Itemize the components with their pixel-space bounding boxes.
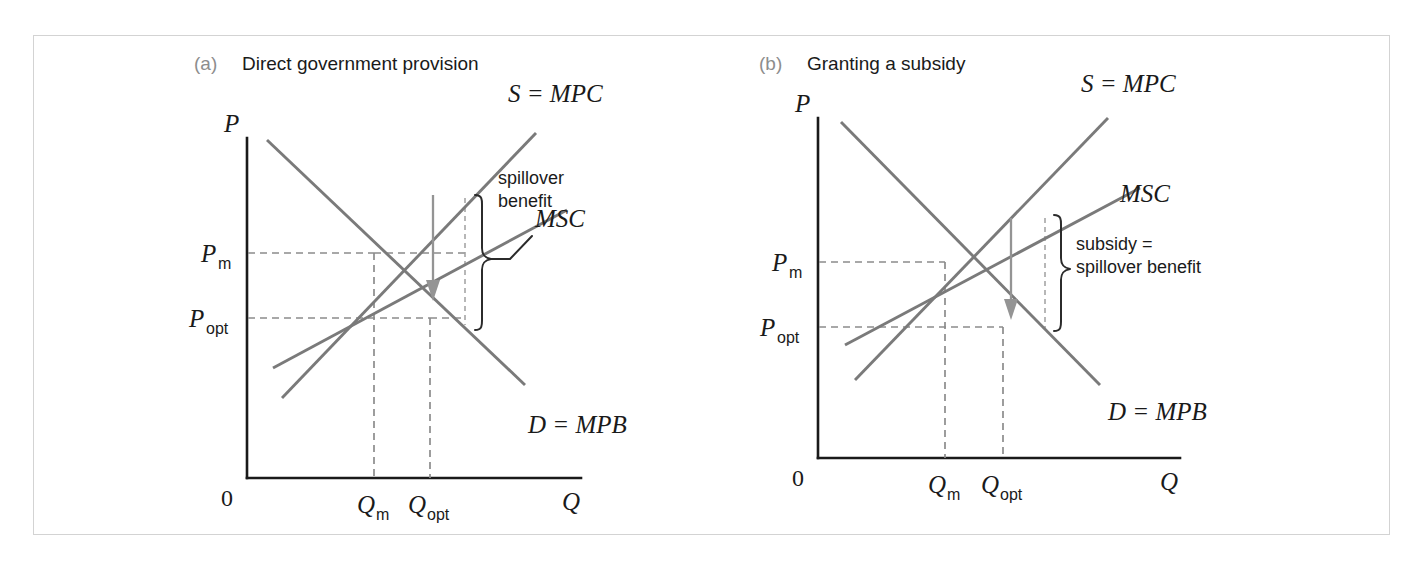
panel-a-origin-label: 0 <box>221 485 233 511</box>
panel-a-xtick-qm: Q m <box>357 491 389 523</box>
panel-b-curve-supply-mpc <box>855 118 1108 380</box>
panel-b-xtick-qm-base: Q <box>928 471 946 498</box>
panel-a-ytick-popt-sub: opt <box>206 320 229 337</box>
panel-b-xtick-qm: Q m <box>928 471 960 503</box>
panel-a-xtick-qopt-base: Q <box>408 491 426 518</box>
panel-b-x-axis-label: Q <box>1160 468 1178 495</box>
panel-b-ytick-pm-base: P <box>771 249 787 276</box>
panel-b-label-msc: MSC <box>1119 180 1170 207</box>
panel-b-tag: (b) <box>759 53 782 74</box>
panel-b-label-supply-mpc: S = MPC <box>1081 70 1176 97</box>
panel-b-title: Granting a subsidy <box>807 53 966 74</box>
panel-b-ytick-popt-sub: opt <box>777 329 800 346</box>
figure-root: (a) Direct government provision P Q 0 S … <box>0 0 1422 564</box>
panel-a-label-supply-mpc: S = MPC <box>508 80 603 107</box>
panel-b-xtick-qopt-base: Q <box>981 471 999 498</box>
panel-a-ytick-popt-base: P <box>188 305 204 332</box>
panel-a: (a) Direct government provision P Q 0 S … <box>180 40 740 540</box>
panel-b-label-demand-mpb: D = MPB <box>1107 398 1207 425</box>
panel-b-ytick-popt: P opt <box>759 314 800 346</box>
panel-a-curve-demand-mpb <box>267 140 525 385</box>
panel-a-brace <box>475 195 532 330</box>
panel-b-origin-label: 0 <box>792 465 804 491</box>
panel-a-x-axis-label: Q <box>562 488 580 515</box>
panel-a-xtick-qm-base: Q <box>357 491 375 518</box>
panel-b: (b) Granting a subsidy P Q 0 S = MPC MSC… <box>745 40 1345 540</box>
panel-a-tag: (a) <box>194 53 217 74</box>
panel-a-title: Direct government provision <box>242 53 479 74</box>
panel-a-annotation-line-1: spillover <box>498 168 564 188</box>
panel-a-xtick-qm-sub: m <box>376 506 389 523</box>
panel-b-ytick-popt-base: P <box>759 314 775 341</box>
panel-b-xtick-qm-sub: m <box>947 486 960 503</box>
panel-a-ytick-popt: P opt <box>188 305 229 337</box>
panel-b-xtick-qopt-sub: opt <box>1000 486 1023 503</box>
panel-a-annotation-line-2: benefit <box>498 191 552 211</box>
panel-a-down-arrow <box>426 195 440 301</box>
panel-a-ytick-pm-base: P <box>200 240 216 267</box>
panel-a-xtick-qopt-sub: opt <box>427 506 450 523</box>
panel-b-annotation-line-1: subsidy = <box>1076 234 1153 254</box>
panel-b-annotation-line-2: spillover benefit <box>1076 257 1201 277</box>
panel-a-y-axis-label: P <box>223 110 239 137</box>
panel-a-xtick-qopt: Q opt <box>408 491 450 523</box>
panel-b-ytick-pm: P m <box>771 249 802 281</box>
panel-a-label-demand-mpb: D = MPB <box>527 411 627 438</box>
panel-a-ytick-pm: P m <box>200 240 231 272</box>
panel-b-y-axis-label: P <box>794 90 810 117</box>
panel-b-xtick-qopt: Q opt <box>981 471 1023 503</box>
panel-b-down-arrow <box>1004 218 1018 320</box>
panel-a-ytick-pm-sub: m <box>218 255 231 272</box>
panel-b-ytick-pm-sub: m <box>789 264 802 281</box>
panel-a-msc-line <box>273 210 567 368</box>
